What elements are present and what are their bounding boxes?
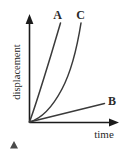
curve-label-c: C: [76, 8, 85, 22]
curve-label-a: A: [53, 8, 62, 22]
x-axis-label: time: [94, 128, 114, 140]
x-axis: [30, 119, 120, 127]
curve-b: [30, 104, 105, 123]
y-axis-label: displacement: [11, 44, 22, 99]
displacement-time-graph: A C B time displacement: [0, 0, 124, 151]
curve-a: [30, 23, 61, 122]
graph-canvas: A C B time displacement: [0, 0, 124, 151]
arrow-up-icon: [26, 14, 34, 24]
curve-label-b: B: [108, 94, 116, 108]
triangle-marker-icon: [10, 141, 18, 149]
y-axis: [26, 14, 34, 123]
arrow-right-icon: [109, 119, 119, 127]
curve-c: [30, 23, 82, 122]
